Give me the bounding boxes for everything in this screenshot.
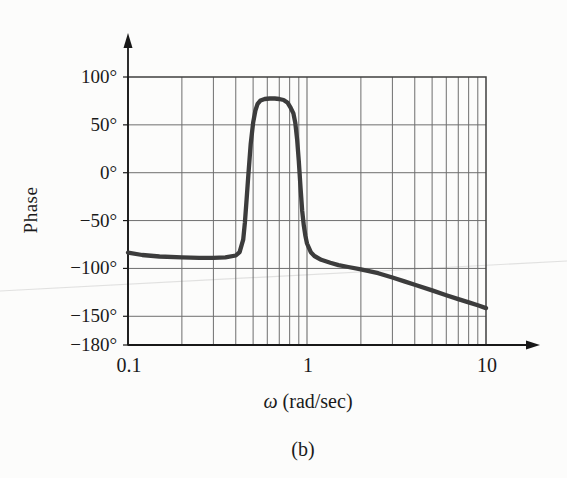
y-tick-label: −100° — [70, 257, 117, 278]
figure-caption: (b) — [291, 438, 314, 461]
bode-phase-figure: 100°50°0°−50°−100°−150°−180°0.1110 Phase… — [0, 0, 567, 478]
y-tick-label: 50° — [90, 114, 117, 135]
y-tick-label: −150° — [70, 305, 117, 326]
y-tick-label: 0° — [100, 162, 117, 183]
x-axis-title: ω (rad/sec) — [263, 390, 352, 413]
x-axis-unit: (rad/sec) — [278, 390, 353, 412]
y-tick-label: −180° — [70, 334, 117, 355]
y-tick-label: 100° — [81, 66, 117, 87]
x-tick-label: 10 — [477, 354, 497, 376]
x-tick-label: 0.1 — [117, 354, 142, 376]
x-axis-arrowhead-icon — [526, 341, 540, 350]
y-axis-arrowhead-icon — [124, 33, 133, 48]
omega-symbol: ω — [263, 390, 277, 412]
y-tick-label: −50° — [80, 210, 117, 231]
x-tick-label: 1 — [303, 354, 313, 376]
y-axis-title: Phase — [20, 187, 42, 234]
